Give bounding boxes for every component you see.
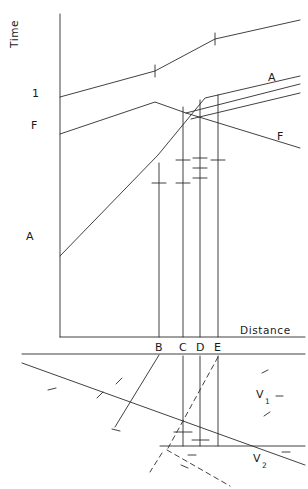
ray-direction-tick-10 (181, 465, 188, 468)
dashed-refracted-ray-extension (167, 450, 230, 486)
velocity-label-v2-subscript: 2 (262, 461, 267, 470)
curve-label-F: F (31, 119, 37, 132)
ray-direction-tick-5 (262, 370, 268, 373)
ray-direction-tick-6 (264, 412, 270, 416)
curve-label-F-right: F (277, 130, 283, 143)
curve-label-A-right: A (268, 71, 276, 84)
traveltime-curve-F (60, 102, 300, 148)
ray-direction-tick-3 (116, 378, 122, 384)
station-label-D: D (196, 341, 204, 354)
station-label-E: E (214, 341, 221, 354)
dashed-refracted-ray (167, 357, 218, 450)
figure-root: Time Distance 1 F A A F B C D E V 1 V 2 (0, 0, 308, 489)
x-axis-label: Distance (240, 324, 291, 336)
traveltime-branch-parallel-2 (191, 93, 300, 119)
ray-direction-tick-1 (48, 388, 56, 390)
station-label-C: C (179, 341, 187, 354)
y-axis-label: Time (8, 20, 20, 49)
dipping-interface (22, 363, 305, 465)
ray-path-B (115, 355, 159, 427)
ray-direction-tick-2 (97, 392, 103, 398)
dashed-ray-tail (150, 453, 162, 472)
curve-label-1: 1 (32, 87, 39, 100)
station-label-B: B (155, 341, 163, 354)
curve-label-A: A (26, 230, 34, 243)
traveltime-curve-1 (60, 20, 300, 97)
velocity-label-v1-subscript: 1 (265, 397, 270, 406)
velocity-label-v2: V (253, 452, 261, 465)
traveltime-curve-A (60, 76, 300, 256)
traveltime-branch-parallel-1 (186, 84, 300, 113)
seismic-refraction-figure: Time Distance 1 F A A F B C D E V 1 V 2 (0, 0, 308, 489)
velocity-label-v1: V (256, 388, 264, 401)
ray-direction-tick-4 (112, 429, 120, 431)
